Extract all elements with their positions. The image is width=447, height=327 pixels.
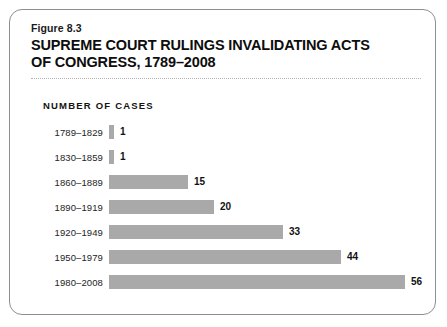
bar-value-label: 1 [120,126,126,137]
bar-category-label: 1789–1829 [31,127,103,138]
bar-track: 33 [109,225,425,239]
figure-title: SUPREME COURT RULINGS INVALIDATING ACTS … [31,37,421,70]
bar-value-label: 1 [120,151,126,162]
bar-row: 1860–1889 15 [31,173,425,198]
bar-track: 44 [109,250,425,264]
bar-category-label: 1890–1919 [31,202,103,213]
bar-segment [109,250,341,264]
bar-track: 56 [109,275,425,289]
bar-chart: 1789–1829 1 1830–1859 1 1860–1889 15 189… [31,123,425,298]
bar-track: 1 [109,150,425,164]
bar-row: 1950–1979 44 [31,248,425,273]
bar-value-label: 56 [411,276,422,287]
bar-row: 1980–2008 56 [31,273,425,298]
bar-value-label: 15 [194,176,205,187]
bar-segment [109,200,214,214]
bar-value-label: 20 [220,201,231,212]
bar-segment [109,175,188,189]
bar-category-label: 1860–1889 [31,177,103,188]
bar-row: 1789–1829 1 [31,123,425,148]
axis-label-number-of-cases: NUMBER OF CASES [43,100,154,111]
title-divider [31,78,421,79]
bar-track: 20 [109,200,425,214]
bar-category-label: 1830–1859 [31,152,103,163]
bar-category-label: 1950–1979 [31,252,103,263]
bar-segment [109,150,114,164]
bar-row: 1830–1859 1 [31,148,425,173]
figure-header: Figure 8.3 SUPREME COURT RULINGS INVALID… [31,22,421,70]
bar-row: 1920–1949 33 [31,223,425,248]
bar-row: 1890–1919 20 [31,198,425,223]
bar-track: 1 [109,125,425,139]
bar-segment [109,275,405,289]
bar-value-label: 33 [289,226,300,237]
bar-segment [109,125,114,139]
figure-card: Figure 8.3 SUPREME COURT RULINGS INVALID… [9,9,436,315]
figure-number: Figure 8.3 [31,22,421,35]
bar-track: 15 [109,175,425,189]
bar-category-label: 1920–1949 [31,227,103,238]
bar-segment [109,225,283,239]
bar-category-label: 1980–2008 [31,277,103,288]
bar-value-label: 44 [347,251,358,262]
